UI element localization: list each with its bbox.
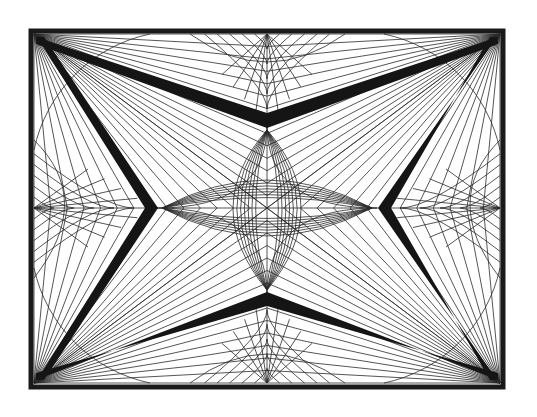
geometric-line-art xyxy=(0,0,537,417)
